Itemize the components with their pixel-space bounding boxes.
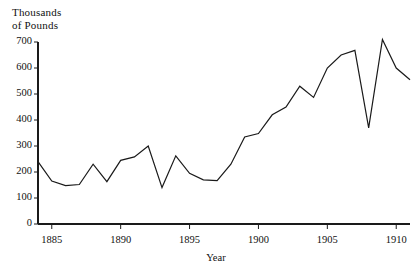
- line-chart: Thousands of Pounds 01002003004005006007…: [0, 0, 420, 280]
- y-axis-tick-label: 300: [2, 139, 32, 150]
- x-axis-tick-label: 1905: [307, 234, 347, 245]
- x-axis-tick-label: 1890: [101, 234, 141, 245]
- x-axis-tick-label: 1900: [238, 234, 278, 245]
- y-axis-tick-label: 400: [2, 113, 32, 124]
- axis-lines: [38, 42, 410, 224]
- x-axis-title: Year: [186, 252, 246, 263]
- x-axis-tick-label: 1885: [32, 234, 72, 245]
- y-axis-tick-label: 700: [2, 35, 32, 46]
- y-axis-tick-label: 0: [2, 217, 32, 228]
- y-axis-tick-label: 600: [2, 61, 32, 72]
- data-series-line: [38, 39, 410, 187]
- x-axis-tick-label: 1895: [170, 234, 210, 245]
- y-axis-tick-label: 200: [2, 165, 32, 176]
- x-axis-tick-label: 1910: [376, 234, 416, 245]
- y-axis-tick-label: 500: [2, 87, 32, 98]
- y-axis-tick-label: 100: [2, 191, 32, 202]
